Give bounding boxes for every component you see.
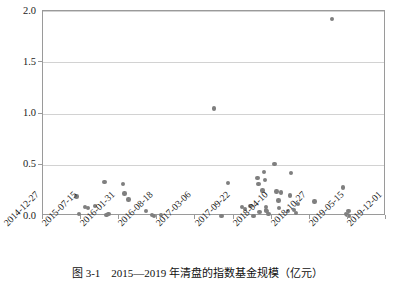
data-point — [102, 180, 106, 184]
y-axis-tick-label: 2.0 — [0, 5, 36, 16]
figure-container: 0.00.51.01.52.0 2014-12-272015-07-152016… — [0, 0, 395, 284]
data-point — [256, 182, 260, 186]
y-axis-tick-label: 1.0 — [0, 107, 36, 118]
data-point — [276, 198, 280, 202]
data-point — [294, 211, 298, 215]
data-point — [346, 209, 350, 213]
data-point — [289, 171, 293, 175]
data-point — [212, 106, 216, 110]
y-axis-tick-label: 1.5 — [0, 56, 36, 67]
data-point — [274, 189, 278, 193]
y-axis-tick-label: 0.5 — [0, 158, 36, 169]
data-point — [272, 162, 276, 166]
gridline — [43, 114, 384, 115]
data-point — [257, 210, 261, 214]
data-point — [312, 199, 316, 203]
gridline — [43, 62, 384, 63]
data-point — [262, 170, 266, 174]
data-point — [341, 185, 345, 189]
data-point — [219, 214, 223, 218]
figure-caption: 图 3-1 2015—2019 年清盘的指数基金规模（亿元） — [0, 266, 395, 280]
data-point — [330, 17, 334, 21]
data-point — [263, 178, 267, 182]
data-point — [106, 212, 110, 216]
x-axis-tick-mark — [385, 215, 386, 219]
data-point — [279, 190, 283, 194]
data-point — [251, 214, 255, 218]
data-point — [121, 182, 125, 186]
data-point — [122, 191, 126, 195]
gridline — [43, 11, 384, 12]
data-point — [226, 181, 230, 185]
data-point — [255, 176, 259, 180]
scatter-plot-area — [42, 10, 385, 215]
gridline — [43, 165, 384, 166]
x-axis-tick-label: 2014-12-27 — [2, 189, 41, 228]
data-point — [144, 209, 148, 213]
data-point — [126, 197, 130, 201]
